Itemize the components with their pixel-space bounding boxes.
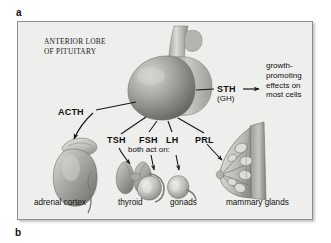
pituitary-gland-illustration	[128, 26, 212, 120]
hormone-label-prl: PRL	[195, 135, 214, 145]
hormone-label-acth: ACTH	[58, 107, 84, 117]
panel-marker-b: b	[15, 228, 21, 238]
organ-label-mammary-glands: mammary glands	[226, 198, 289, 207]
hormone-label-sth: STH	[217, 84, 236, 94]
diagram-title-line2: OF PITUITARY	[44, 48, 96, 56]
diagram-title-line1: ANTERIOR LOBE	[44, 38, 106, 46]
organ-label-thyroid: thyroid	[118, 198, 143, 207]
mammary-gland-illustration	[216, 122, 266, 200]
pituitary-hormone-diagram: ANTERIOR LOBE OF PITUITARY STH (GH) grow…	[17, 21, 313, 220]
sth-effect-text: growth-promoting effects on most cells	[266, 61, 313, 100]
hormone-label-tsh: TSH	[107, 135, 126, 145]
organ-label-gonads: gonads	[170, 198, 197, 207]
panel-marker-a: a	[16, 8, 22, 18]
hormone-alias-gh: (GH)	[217, 95, 234, 104]
hormone-label-lh: LH	[166, 135, 178, 145]
hormone-label-fsh: FSH	[139, 135, 158, 145]
both-act-on-note: both act on:	[128, 146, 170, 155]
organ-label-adrenal-cortex: adrenal cortex	[34, 198, 86, 207]
